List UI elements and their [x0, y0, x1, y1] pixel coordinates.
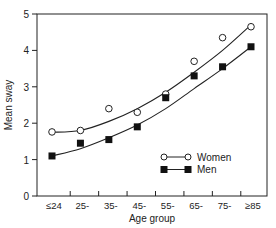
- y-tick-label: 2: [23, 118, 29, 129]
- legend-label-men: Men: [197, 164, 216, 175]
- x-tick-label: 45-: [132, 200, 146, 211]
- y-axis-label: Mean sway: [3, 80, 14, 131]
- x-tick-label: ≥85: [245, 200, 261, 211]
- data-point-men: [219, 63, 226, 70]
- line-chart: 012345≤2425-35-45-55-65-75-≥85 WomenMen …: [0, 0, 276, 228]
- x-tick-label: 55-: [161, 200, 175, 211]
- legend-label-women: Women: [197, 152, 231, 163]
- y-tick-label: 4: [23, 45, 29, 56]
- data-point-men: [105, 136, 112, 143]
- legend-marker-men: [185, 166, 192, 173]
- y-tick-label: 5: [23, 9, 29, 20]
- data-point-women: [134, 109, 141, 116]
- data-point-men: [248, 43, 255, 50]
- series-layer: [49, 23, 255, 159]
- data-point-women: [106, 105, 113, 112]
- legend: WomenMen: [161, 152, 232, 176]
- data-point-women: [49, 129, 56, 136]
- data-point-men: [49, 152, 56, 159]
- x-axis-label: Age group: [129, 213, 176, 224]
- x-tick-label: ≤24: [46, 200, 62, 211]
- legend-marker-women: [185, 154, 191, 160]
- data-point-women: [219, 34, 226, 41]
- data-point-men: [134, 123, 141, 130]
- legend-marker-women: [161, 154, 167, 160]
- axes: 012345≤2425-35-45-55-65-75-≥85: [23, 9, 267, 211]
- x-tick-label: 75-: [218, 200, 232, 211]
- y-tick-label: 3: [23, 82, 29, 93]
- data-point-men: [191, 72, 198, 79]
- data-point-women: [77, 127, 84, 134]
- data-point-women: [248, 23, 255, 30]
- x-tick-label: 35-: [104, 200, 118, 211]
- x-tick-label: 65-: [189, 200, 203, 211]
- data-point-men: [77, 140, 84, 147]
- y-tick-label: 0: [23, 191, 29, 202]
- x-tick-label: 25-: [76, 200, 90, 211]
- y-tick-label: 1: [23, 155, 29, 166]
- data-point-men: [162, 94, 169, 101]
- data-point-women: [191, 58, 198, 65]
- legend-marker-men: [161, 166, 168, 173]
